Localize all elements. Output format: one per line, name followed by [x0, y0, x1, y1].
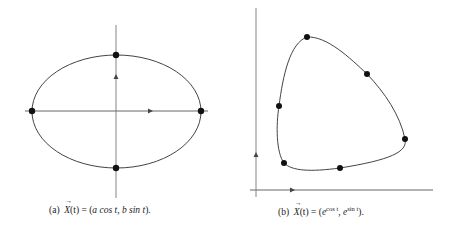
x-axis-arrow-icon	[290, 188, 295, 193]
caption-a-arg: (t) = (	[70, 205, 92, 215]
y-axis-arrow-icon	[254, 152, 259, 157]
caption-b-arg: (t) = (	[300, 207, 322, 217]
caption-a-end: ).	[145, 205, 151, 215]
caption-b-exp2: sin t	[347, 205, 358, 212]
caption-b-exp1: cos t	[326, 205, 338, 212]
caption-a-label: (a)	[49, 205, 60, 215]
caption-b-label: (b)	[278, 207, 289, 217]
caption-b-end: ).	[358, 207, 364, 217]
point-5	[281, 160, 287, 166]
point-3	[402, 136, 408, 142]
closed-loop-curve	[277, 37, 405, 170]
marked-points	[276, 34, 408, 171]
subfigure-b-plot	[0, 0, 454, 200]
point-4	[337, 165, 343, 171]
point-2	[364, 71, 370, 77]
caption-a-vector: X	[64, 205, 70, 215]
caption-b: (b) X(t) = (ecos t, esin t).	[278, 205, 364, 217]
caption-a-body: a cos t, b sin t	[92, 205, 145, 215]
point-1	[304, 34, 310, 40]
point-6	[276, 103, 282, 109]
caption-b-vector: X	[294, 207, 300, 217]
caption-a: (a) X(t) = (a cos t, b sin t).	[49, 205, 151, 215]
